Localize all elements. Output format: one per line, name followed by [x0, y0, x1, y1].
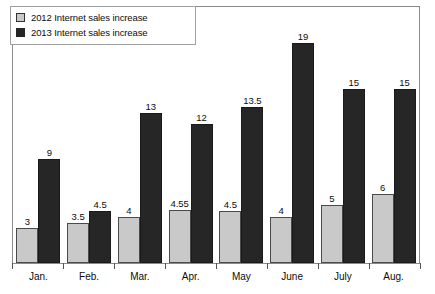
bar[interactable]: 4: [118, 217, 140, 263]
bar-value-label: 5: [329, 194, 334, 204]
x-axis-tick: [267, 263, 268, 269]
bar-value-label: 4.55: [170, 199, 189, 209]
bar-slot: 4: [270, 7, 292, 263]
bar-group: 39: [13, 7, 64, 263]
bar[interactable]: 4.5: [219, 211, 241, 263]
bar-slot: 4: [118, 7, 140, 263]
x-axis-category-labels: Jan.Feb.Mar.Apr.MayJuneJulyAug.: [13, 271, 419, 283]
x-axis-label-2: Mar.: [115, 271, 166, 283]
bar-slot: 3.5: [67, 7, 89, 263]
bar-chart: 393.54.54134.55124.513.5419515615 Jan.Fe…: [0, 0, 435, 294]
bar[interactable]: 15: [394, 89, 416, 263]
bar[interactable]: 5: [321, 205, 343, 263]
bar-value-label: 4: [126, 206, 131, 216]
x-axis-tick: [369, 263, 370, 269]
x-axis-tick: [63, 263, 64, 269]
x-axis-label-5: June: [267, 271, 318, 283]
x-axis-tick: [216, 263, 217, 269]
bar-value-label: 12: [196, 113, 207, 123]
bar[interactable]: 4.5: [89, 211, 111, 263]
bar-slot: 13.5: [241, 7, 263, 263]
bar-value-label: 13: [146, 102, 157, 112]
bar-group: 3.54.5: [64, 7, 115, 263]
bars-container: 393.54.54134.55124.513.5419515615: [13, 7, 419, 263]
bar[interactable]: 3: [16, 228, 38, 263]
bar-value-label: 19: [298, 32, 309, 42]
bar-value-label: 9: [47, 148, 52, 158]
x-axis-label-0: Jan.: [13, 271, 64, 283]
x-axis-label-1: Feb.: [64, 271, 115, 283]
bar-group: 515: [318, 7, 369, 263]
x-axis-label-6: July: [318, 271, 369, 283]
bar[interactable]: 19: [292, 43, 314, 263]
bar-value-label: 15: [349, 78, 360, 88]
legend-item-2012[interactable]: 2012 Internet sales increase: [16, 10, 190, 25]
bar-value-label: 4.5: [94, 200, 107, 210]
bar[interactable]: 12: [191, 124, 213, 263]
legend-swatch-2012-icon: [16, 13, 25, 22]
x-axis-label-7: Aug.: [368, 271, 419, 283]
bar-group: 419: [267, 7, 318, 263]
bar-value-label: 15: [399, 78, 410, 88]
legend-item-2013[interactable]: 2013 Internet sales increase: [16, 25, 190, 40]
legend-swatch-2013-icon: [16, 28, 25, 37]
x-axis-tick: [420, 263, 421, 269]
bar-value-label: 13.5: [243, 96, 262, 106]
bar[interactable]: 6: [372, 194, 394, 263]
bar-value-label: 3: [25, 217, 30, 227]
x-axis-ticks: [12, 263, 420, 270]
bar[interactable]: 15: [343, 89, 365, 263]
bar-slot: 3: [16, 7, 38, 263]
bar-group: 4.513.5: [216, 7, 267, 263]
bar-group: 615: [368, 7, 419, 263]
bar-value-label: 6: [380, 183, 385, 193]
x-axis-tick: [114, 263, 115, 269]
x-axis-label-4: May: [216, 271, 267, 283]
bar-slot: 4.5: [89, 7, 111, 263]
chart-legend: 2012 Internet sales increase 2013 Intern…: [10, 6, 196, 45]
bar-group: 413: [115, 7, 166, 263]
bar[interactable]: 3.5: [67, 223, 89, 264]
bar-slot: 4.5: [219, 7, 241, 263]
bar-slot: 15: [394, 7, 416, 263]
bar-slot: 12: [191, 7, 213, 263]
x-axis-tick: [165, 263, 166, 269]
legend-label-2013: 2013 Internet sales increase: [31, 27, 148, 38]
legend-label-2012: 2012 Internet sales increase: [31, 12, 148, 23]
x-axis-tick: [12, 263, 13, 269]
bar[interactable]: 9: [38, 159, 60, 263]
bar-group: 4.5512: [165, 7, 216, 263]
bar-slot: 6: [372, 7, 394, 263]
bar-slot: 19: [292, 7, 314, 263]
bar[interactable]: 13.5: [241, 107, 263, 263]
bar-slot: 13: [140, 7, 162, 263]
bar-value-label: 4: [278, 206, 283, 216]
bar-slot: 9: [38, 7, 60, 263]
bar[interactable]: 13: [140, 113, 162, 263]
bar[interactable]: 4: [270, 217, 292, 263]
x-axis-label-3: Apr.: [165, 271, 216, 283]
bar-slot: 4.55: [169, 7, 191, 263]
bar[interactable]: 4.55: [169, 210, 191, 263]
bar-slot: 15: [343, 7, 365, 263]
bar-slot: 5: [321, 7, 343, 263]
bar-value-label: 4.5: [224, 200, 237, 210]
x-axis-tick: [318, 263, 319, 269]
bar-value-label: 3.5: [72, 212, 85, 222]
